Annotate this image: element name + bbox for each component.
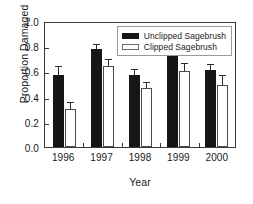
error-bar-line — [108, 60, 109, 66]
bar-rect — [167, 56, 178, 147]
legend-swatch-icon — [122, 44, 139, 50]
bar-group-1996 — [45, 23, 83, 147]
error-bar-cap — [207, 64, 214, 65]
bar-chart-figure: Proportion Damaged 0.00.20.40.60.81.0 Un… — [0, 0, 253, 204]
error-bar-line — [222, 76, 223, 85]
legend-item-unclipped: Unclipped Sagebrush — [122, 30, 226, 41]
bar-rect — [53, 75, 64, 147]
error-bar-line — [210, 65, 211, 70]
bar-group-1997 — [83, 23, 121, 147]
y-tick-label: 0.2 — [8, 117, 39, 128]
legend-swatch-icon — [122, 33, 139, 39]
error-bar-line — [146, 83, 147, 87]
x-tick-mark — [83, 143, 84, 147]
bar-rect — [217, 85, 228, 147]
y-tick-label: 0.6 — [8, 67, 39, 78]
x-tick-label: 1998 — [121, 152, 159, 163]
y-tick-label: 1.0 — [8, 17, 39, 28]
bar-rect — [205, 70, 216, 147]
error-bar-line — [134, 70, 135, 75]
error-bar-cap — [55, 66, 62, 67]
y-tick-label: 0.8 — [8, 42, 39, 53]
chart-legend: Unclipped SagebrushClipped Sagebrush — [117, 26, 232, 56]
bar-rect — [91, 49, 102, 147]
plot-inner: Unclipped SagebrushClipped Sagebrush — [45, 23, 235, 147]
error-bar-line — [184, 64, 185, 72]
y-axis-tick-labels: 0.00.20.40.60.81.0 — [8, 22, 39, 148]
error-bar-line — [96, 45, 97, 49]
plot-area: Unclipped SagebrushClipped Sagebrush — [44, 22, 236, 148]
error-bar-cap — [67, 102, 74, 103]
error-bar-cap — [105, 59, 112, 60]
error-bar-cap — [181, 63, 188, 64]
error-bar-cap — [93, 44, 100, 45]
x-axis-title: Year — [44, 176, 236, 188]
y-tick-label: 0.4 — [8, 92, 39, 103]
error-bar-cap — [143, 82, 150, 83]
error-bar-line — [70, 103, 71, 109]
bar-rect — [141, 88, 152, 147]
x-tick-mark — [160, 143, 161, 147]
y-tick-mark — [45, 99, 49, 100]
x-tick-mark — [122, 143, 123, 147]
x-tick-label: 1997 — [82, 152, 120, 163]
bar-rect — [65, 109, 76, 147]
legend-item-clipped: Clipped Sagebrush — [122, 41, 226, 52]
x-tick-label: 1999 — [159, 152, 197, 163]
legend-label: Unclipped Sagebrush — [144, 31, 226, 41]
error-bar-line — [58, 67, 59, 75]
bar-rect — [129, 75, 140, 147]
x-tick-mark — [199, 143, 200, 147]
error-bar-cap — [131, 69, 138, 70]
bar-rect — [179, 71, 190, 147]
x-axis-tick-labels: 19961997199819992000 — [44, 152, 236, 163]
y-tick-mark — [45, 73, 49, 74]
x-tick-label: 1996 — [44, 152, 82, 163]
legend-label: Clipped Sagebrush — [144, 42, 217, 52]
y-tick-label: 0.0 — [8, 143, 39, 154]
y-tick-mark — [45, 48, 49, 49]
error-bar-cap — [219, 75, 226, 76]
x-tick-label: 2000 — [198, 152, 236, 163]
y-tick-mark — [45, 124, 49, 125]
bar-rect — [103, 66, 114, 147]
